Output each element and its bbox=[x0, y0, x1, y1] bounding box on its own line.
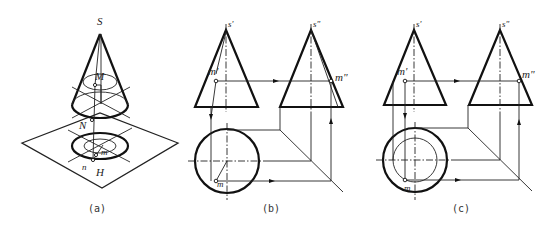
point-m-double-prime bbox=[517, 79, 521, 83]
arrow-down-icon bbox=[209, 114, 213, 120]
front-view-triangle bbox=[195, 30, 258, 107]
label-n-lower: n bbox=[82, 162, 87, 172]
label-s-prime: s' bbox=[228, 19, 235, 29]
arrow-down-icon bbox=[403, 113, 407, 119]
arrow-right-icon bbox=[273, 79, 279, 83]
arrow-up-icon bbox=[329, 118, 333, 124]
projector-line bbox=[93, 85, 95, 160]
label-h: H bbox=[95, 166, 105, 178]
proj-front-down-2 bbox=[211, 81, 216, 117]
caption-c: (c) bbox=[452, 203, 470, 214]
label-s-prime: s' bbox=[416, 19, 423, 29]
label-m-upper: M bbox=[94, 70, 105, 82]
panel-c-projection: s' s" m' m" m (c) bbox=[376, 19, 535, 214]
top-generatrix bbox=[216, 161, 227, 181]
label-m-top: m bbox=[217, 179, 224, 189]
label-s-double-prime: s" bbox=[502, 19, 510, 29]
panel-a-isometric-cone: S M N m n H (a) bbox=[22, 15, 178, 214]
label-s-double-prime: s" bbox=[313, 19, 321, 29]
cone-base-front bbox=[72, 105, 128, 118]
label-m-double-prime: m" bbox=[335, 71, 348, 83]
point-n-proj bbox=[91, 158, 94, 161]
cone-projection-diagram: S M N m n H (a) bbox=[0, 0, 552, 232]
caption-a: (a) bbox=[88, 203, 106, 214]
caption-b: (b) bbox=[262, 203, 280, 214]
point-m-proj bbox=[94, 153, 97, 156]
label-m-lower: m bbox=[101, 147, 108, 157]
side-generatrix bbox=[311, 30, 338, 107]
label-m-double-prime: m" bbox=[522, 68, 535, 80]
arrow-right-icon bbox=[269, 179, 275, 183]
label-m-prime: m' bbox=[397, 65, 408, 77]
point-m-prime bbox=[214, 79, 218, 83]
label-m-top: m bbox=[404, 183, 411, 193]
arrow-right-icon bbox=[454, 79, 460, 83]
label-n-upper: N bbox=[78, 119, 87, 131]
label-s: S bbox=[97, 15, 103, 27]
label-m-prime: m' bbox=[208, 65, 219, 77]
cone-right-edge bbox=[100, 34, 128, 105]
point-m-prime bbox=[403, 79, 407, 83]
point-m-double-prime bbox=[329, 79, 333, 83]
point-m-top bbox=[403, 178, 407, 182]
panel-b-projection: s' s" m' m" m (b) bbox=[188, 19, 348, 214]
arrow-right-icon bbox=[455, 178, 461, 182]
arrow-up-icon bbox=[517, 119, 521, 125]
point-m bbox=[93, 83, 96, 86]
point-n bbox=[90, 118, 93, 121]
